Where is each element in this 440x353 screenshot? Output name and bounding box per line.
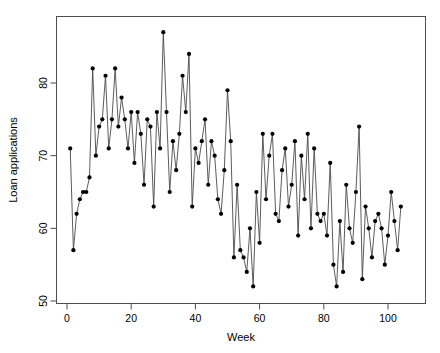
data-point — [197, 161, 201, 165]
y-tick-label: 70 — [37, 150, 49, 162]
data-point — [306, 132, 310, 136]
data-point — [222, 168, 226, 172]
data-series — [68, 30, 403, 289]
data-point — [335, 284, 339, 288]
data-point — [264, 197, 268, 201]
data-point — [254, 190, 258, 194]
data-point — [158, 146, 162, 150]
data-point — [325, 234, 329, 238]
data-point — [200, 139, 204, 143]
data-point — [290, 183, 294, 187]
data-point — [68, 146, 72, 150]
y-axis-ticks: 50607080 — [37, 77, 56, 307]
x-tick-label: 100 — [379, 312, 397, 324]
data-point — [373, 219, 377, 223]
y-tick-label: 50 — [37, 295, 49, 307]
data-point — [399, 204, 403, 208]
data-point — [357, 125, 361, 129]
data-point — [386, 234, 390, 238]
data-point — [245, 270, 249, 274]
x-tick-label: 80 — [318, 312, 330, 324]
data-point — [258, 241, 262, 245]
data-point — [363, 204, 367, 208]
data-point — [132, 161, 136, 165]
data-point — [354, 190, 358, 194]
data-point — [110, 117, 114, 121]
data-point — [171, 139, 175, 143]
data-point — [116, 125, 120, 129]
y-tick-label: 80 — [37, 77, 49, 89]
data-point — [219, 212, 223, 216]
data-point — [315, 212, 319, 216]
y-axis-label: Loan applications — [7, 117, 19, 203]
data-point — [309, 226, 313, 230]
data-point — [129, 110, 133, 114]
data-point — [136, 110, 140, 114]
data-point — [331, 263, 335, 267]
data-point — [229, 139, 233, 143]
data-point — [213, 154, 217, 158]
data-point — [248, 226, 252, 230]
data-point — [302, 197, 306, 201]
data-point — [203, 117, 207, 121]
data-point — [190, 204, 194, 208]
data-point — [119, 95, 123, 99]
data-point — [318, 219, 322, 223]
data-point — [238, 248, 242, 252]
data-point — [328, 161, 332, 165]
data-point — [145, 117, 149, 121]
plot-frame — [57, 17, 426, 304]
data-point — [126, 146, 130, 150]
data-point — [187, 52, 191, 56]
data-point — [277, 219, 281, 223]
data-point — [161, 30, 165, 34]
x-tick-label: 0 — [64, 312, 70, 324]
data-point — [87, 175, 91, 179]
data-point — [322, 212, 326, 216]
data-point — [379, 226, 383, 230]
data-point — [225, 88, 229, 92]
data-point — [97, 125, 101, 129]
data-point — [107, 146, 111, 150]
data-point — [75, 212, 79, 216]
data-point — [103, 74, 107, 78]
data-point — [100, 117, 104, 121]
data-point — [164, 110, 168, 114]
data-point — [283, 146, 287, 150]
data-point — [177, 132, 181, 136]
data-point — [286, 204, 290, 208]
data-point — [232, 255, 236, 259]
data-point — [351, 241, 355, 245]
y-tick-label: 60 — [37, 222, 49, 234]
data-point — [174, 168, 178, 172]
data-point — [360, 277, 364, 281]
data-point — [293, 139, 297, 143]
data-point — [113, 66, 117, 70]
data-point — [152, 204, 156, 208]
data-point — [344, 183, 348, 187]
data-point — [312, 146, 316, 150]
data-point — [370, 255, 374, 259]
data-point — [148, 125, 152, 129]
data-point — [367, 226, 371, 230]
data-point — [299, 154, 303, 158]
data-point — [389, 190, 393, 194]
data-point — [78, 197, 82, 201]
x-tick-label: 40 — [190, 312, 202, 324]
x-axis-ticks: 020406080100 — [64, 304, 397, 324]
data-point — [267, 154, 271, 158]
data-point — [209, 139, 213, 143]
series-markers — [68, 30, 403, 289]
data-point — [270, 132, 274, 136]
x-tick-label: 60 — [254, 312, 266, 324]
data-point — [396, 248, 400, 252]
data-point — [206, 183, 210, 187]
data-point — [193, 146, 197, 150]
loan-applications-line-chart: 50607080 020406080100 Loan applications … — [0, 0, 440, 353]
data-point — [274, 212, 278, 216]
data-point — [180, 74, 184, 78]
data-point — [261, 132, 265, 136]
data-point — [139, 132, 143, 136]
data-point — [235, 183, 239, 187]
data-point — [296, 234, 300, 238]
